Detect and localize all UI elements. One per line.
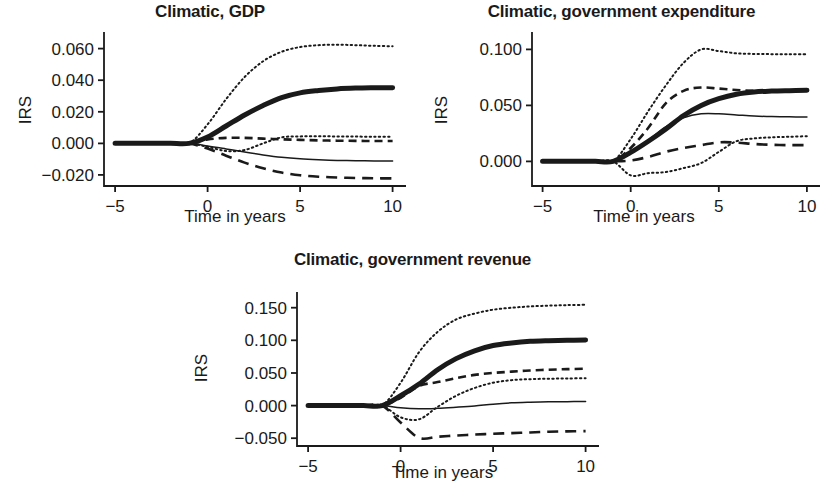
x-tick-label: 0 (626, 197, 635, 216)
y-tick-label: 0.000 (51, 134, 94, 153)
plot-area-gdp: −0.0200.0000.0200.0400.060−50510 (0, 0, 420, 232)
y-tick-label: −0.050 (235, 429, 287, 448)
y-tick-label: 0.000 (244, 397, 287, 416)
x-tick-label: 5 (714, 197, 723, 216)
series-line-upper-outer-band (308, 305, 585, 407)
y-tick-label: 0.100 (244, 331, 287, 350)
series-line-mid-dotted-band (308, 378, 585, 420)
y-tick-label: 0.050 (244, 364, 287, 383)
x-tick-label: −5 (533, 197, 552, 216)
y-tick-label: −0.020 (42, 166, 94, 185)
x-tick-label: 10 (383, 197, 402, 216)
panel-climatic-expenditure: Climatic, government expenditure IRS Tim… (418, 0, 825, 232)
series-line-point-estimate (115, 88, 393, 144)
x-tick-label: 5 (488, 457, 497, 476)
y-tick-label: 0.000 (479, 152, 522, 171)
x-tick-label: −5 (105, 197, 124, 216)
y-tick-label: 0.150 (244, 299, 287, 318)
series-line-lower-outer-band (543, 136, 807, 176)
series-line-point-estimate (308, 340, 585, 406)
x-tick-label: 10 (797, 197, 816, 216)
x-tick-label: 0 (396, 457, 405, 476)
series-line-point-estimate (543, 90, 807, 162)
x-tick-label: 0 (203, 197, 212, 216)
panel-climatic-gdp: Climatic, GDP IRS Time in years −0.0200.… (0, 0, 420, 232)
series-line-upper-outer-band (115, 45, 393, 145)
x-tick-label: 5 (295, 197, 304, 216)
series-line-lower-outer-band (308, 404, 585, 438)
y-tick-label: 0.060 (51, 40, 94, 59)
y-tick-label: 0.050 (479, 96, 522, 115)
x-tick-label: 10 (576, 457, 595, 476)
series-line-lower-inner-band (543, 142, 807, 161)
plot-area-expenditure: 0.0000.0500.100−50510 (418, 0, 825, 232)
plot-area-revenue: −0.0500.0000.0500.1000.150−50510 (150, 248, 675, 492)
x-tick-label: −5 (298, 457, 317, 476)
y-tick-label: 0.040 (51, 71, 94, 90)
panel-climatic-revenue: Climatic, government revenue IRS Time in… (150, 248, 675, 492)
y-tick-label: 0.020 (51, 103, 94, 122)
y-tick-label: 0.100 (479, 40, 522, 59)
